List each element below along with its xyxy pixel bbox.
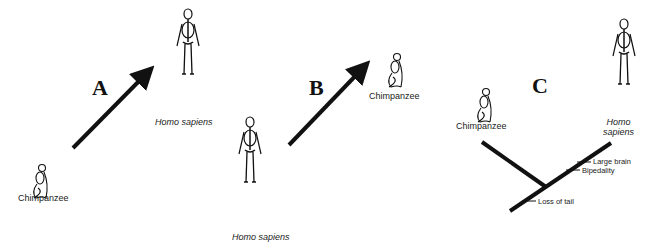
trait-large-brain: Large brain [593,157,631,166]
chimpanzee-skeleton-icon [478,89,491,123]
arrow-b [289,69,362,145]
figure-canvas [0,0,661,250]
human-skeleton-icon [239,117,261,182]
label-sapiens: sapiens [603,127,634,137]
trait-loss-of-tail: Loss of tail [538,197,574,206]
panel-a [34,9,199,198]
figure-caption-cutoff [14,246,134,250]
label-homo-sapiens-c: Homo sapiens [603,117,634,137]
label-homo: Homo [603,117,634,127]
trait-bipedality: Bipedality [582,166,615,175]
panel-letter-b: B [309,75,324,101]
panel-letter-c: C [532,73,548,99]
label-chimpanzee-c: Chimpanzee [456,121,507,131]
panel-c [478,19,635,211]
label-chimpanzee-a: Chimpanzee [18,193,69,203]
label-homo-sapiens-a: Homo sapiens [155,117,213,127]
panel-letter-a: A [92,75,108,101]
arrow-a [73,74,146,148]
label-chimpanzee-b: Chimpanzee [369,91,420,101]
panel-b [239,54,402,183]
chimpanzee-skeleton-icon [389,54,402,88]
human-skeleton-icon [177,9,199,74]
label-homo-sapiens-b: Homo sapiens [232,232,290,242]
human-skeleton-icon [613,19,635,84]
